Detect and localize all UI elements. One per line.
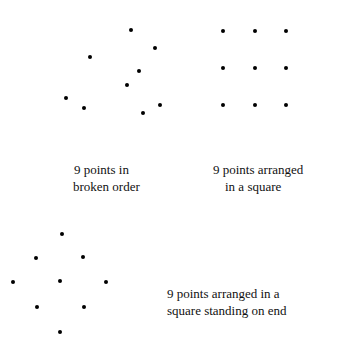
point-dot <box>88 55 92 59</box>
point-dot <box>129 28 133 32</box>
point-dot <box>158 103 162 107</box>
caption-diamond: 9 points arranged in a square standing o… <box>167 285 287 319</box>
point-dot <box>82 106 86 110</box>
point-dot <box>284 66 288 70</box>
point-dot <box>221 29 225 33</box>
caption-line: in a square <box>213 178 303 195</box>
point-dot <box>64 96 68 100</box>
caption-line: square standing on end <box>167 302 287 319</box>
point-dot <box>253 66 257 70</box>
point-dot <box>221 103 225 107</box>
point-dot <box>34 256 38 260</box>
point-dot <box>125 83 129 87</box>
point-dot <box>81 255 85 259</box>
caption-line: 9 points arranged <box>213 161 303 178</box>
caption-square: 9 points arranged in a square <box>213 161 303 195</box>
nine-points-figure: 9 points in broken order 9 points arrang… <box>0 0 339 354</box>
caption-line: 9 points in <box>73 161 140 178</box>
caption-line: broken order <box>73 178 140 195</box>
point-dot <box>104 280 108 284</box>
point-dot <box>137 69 141 73</box>
caption-broken-order: 9 points in broken order <box>73 161 140 195</box>
point-dot <box>284 103 288 107</box>
point-dot <box>141 111 145 115</box>
point-dot <box>11 280 15 284</box>
point-dot <box>35 305 39 309</box>
point-dot <box>153 46 157 50</box>
point-dot <box>60 232 64 236</box>
point-dot <box>253 103 257 107</box>
point-dot <box>58 279 62 283</box>
point-dot <box>82 305 86 309</box>
point-dot <box>284 29 288 33</box>
point-dot <box>253 29 257 33</box>
point-dot <box>58 330 62 334</box>
point-dot <box>221 66 225 70</box>
caption-line: 9 points arranged in a <box>167 285 287 302</box>
